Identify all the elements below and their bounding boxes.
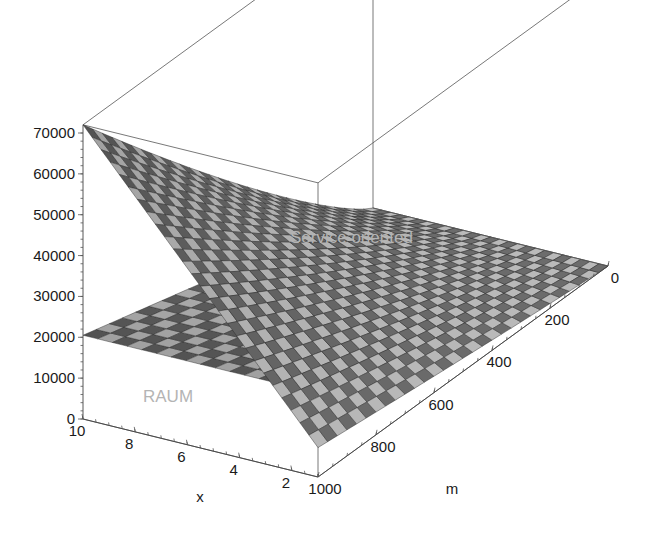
x-tick-label-6: 6: [177, 448, 185, 465]
x-minor-tick: [122, 426, 123, 429]
z-tick-label-50000: 50000: [33, 206, 75, 223]
x-tick-label-10: 10: [69, 422, 86, 439]
z-tick-label-40000: 40000: [33, 247, 75, 264]
annotation-service-oriented: Service oriented: [290, 228, 413, 247]
x-minor-tick: [226, 451, 227, 454]
m-minor-tick: [434, 390, 435, 393]
m-tick-label-1000: 1000: [308, 480, 341, 497]
m-tick-label-600: 600: [428, 396, 453, 413]
m-minor-tick: [565, 295, 566, 298]
x-minor-tick: [83, 416, 84, 419]
x-minor-tick: [200, 445, 201, 448]
m-minor-tick: [521, 326, 522, 329]
m-axis-title: m: [446, 480, 459, 497]
m-minor-tick: [449, 379, 450, 382]
m-minor-tick: [405, 411, 406, 414]
x-minor-tick: [174, 439, 175, 442]
z-tick-label-60000: 60000: [33, 165, 75, 182]
x-minor-tick: [239, 455, 240, 458]
m-minor-tick: [492, 347, 493, 350]
m-minor-tick: [333, 463, 334, 466]
m-minor-tick: [579, 284, 580, 287]
z-tick-label-20000: 20000: [33, 328, 75, 345]
x-minor-tick: [252, 458, 253, 461]
box-top-edge-back: [83, 0, 373, 125]
m-minor-tick: [362, 442, 363, 445]
x-minor-tick: [161, 435, 162, 438]
x-minor-tick: [291, 468, 292, 471]
box-top-edge-front: [318, 0, 608, 183]
annotation-raum: RAUM: [143, 387, 193, 406]
x-tick-label-4: 4: [230, 461, 238, 478]
m-minor-tick: [420, 400, 421, 403]
x-tick-label-2: 2: [282, 474, 290, 491]
z-tick-label-10000: 10000: [33, 369, 75, 386]
z-tick-label-70000: 70000: [33, 124, 75, 141]
x-minor-tick: [187, 442, 188, 445]
m-tick-label-400: 400: [486, 353, 511, 370]
x-minor-tick: [109, 422, 110, 425]
m-minor-tick: [550, 305, 551, 308]
m-minor-tick: [608, 263, 609, 266]
z-tick-label-30000: 30000: [33, 287, 75, 304]
x-minor-tick: [265, 461, 266, 464]
x-minor-tick: [278, 464, 279, 467]
m-tick-label-200: 200: [544, 311, 569, 328]
x-minor-tick: [148, 432, 149, 435]
x-minor-tick: [96, 419, 97, 422]
surface-plot-figure: 0100002000030000400005000060000700001086…: [0, 0, 655, 558]
m-minor-tick: [478, 358, 479, 361]
m-minor-tick: [594, 274, 595, 277]
m-minor-tick: [376, 432, 377, 435]
x-minor-tick: [213, 448, 214, 451]
m-minor-tick: [347, 453, 348, 456]
m-minor-tick: [507, 337, 508, 340]
m-minor-tick: [536, 316, 537, 319]
x-minor-tick: [135, 429, 136, 432]
x-axis-title: x: [196, 488, 204, 505]
m-tick-label-800: 800: [370, 438, 395, 455]
m-minor-tick: [391, 421, 392, 424]
m-minor-tick: [463, 369, 464, 372]
x-minor-tick: [304, 471, 305, 474]
m-tick-label-0: 0: [611, 269, 619, 286]
x-tick-label-8: 8: [125, 435, 133, 452]
m-minor-tick: [318, 474, 319, 477]
plot-canvas: 0100002000030000400005000060000700001086…: [0, 0, 655, 558]
